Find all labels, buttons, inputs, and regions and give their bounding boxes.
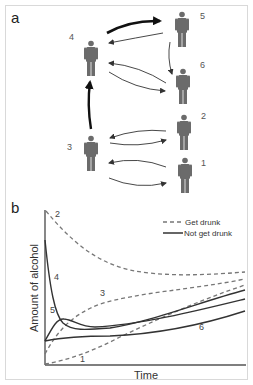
figure-canvas: a 4 5 6 2 3 1 b Time Amount of alcohol	[0, 0, 253, 385]
node-label-3: 3	[67, 142, 72, 152]
legend-solid-label: Not get drunk	[184, 229, 233, 238]
node-label-1: 1	[201, 158, 206, 168]
curve-label-4: 4	[54, 272, 59, 282]
person-4-icon	[84, 41, 98, 76]
person-3-icon	[84, 136, 98, 171]
person-6-icon	[176, 69, 190, 104]
edge-5-to-4	[109, 33, 163, 43]
node-label-2: 2	[201, 111, 206, 121]
curve-label-3: 3	[100, 288, 105, 298]
edge-2-to-3	[110, 130, 166, 138]
person-1-icon	[178, 158, 192, 193]
curve-3	[45, 279, 245, 354]
panel-b: b Time Amount of alcohol Get drunk Not g…	[11, 199, 246, 381]
curve-4	[45, 240, 245, 329]
node-label-5: 5	[200, 11, 205, 21]
legend-dashed-label: Get drunk	[185, 218, 221, 227]
curve-label-1: 1	[80, 354, 85, 364]
edge-4-to-6	[109, 72, 165, 91]
curve-label-6: 6	[199, 322, 204, 332]
edge-6-to-4	[109, 63, 166, 83]
edge-3-to-1	[109, 178, 166, 186]
curve-label-2: 2	[55, 209, 60, 219]
edge-3-to-4	[89, 82, 91, 129]
edge-4-to-5	[107, 21, 160, 33]
y-axis-title: Amount of alcohol	[28, 244, 40, 332]
edge-1-to-3	[109, 160, 166, 167]
person-2-icon	[177, 115, 191, 150]
node-label-4: 4	[69, 32, 74, 42]
legend: Get drunk Not get drunk	[163, 218, 233, 238]
person-5-icon	[175, 12, 189, 47]
curve-1	[45, 285, 245, 364]
panel-a: a 4 5 6 2 3 1	[11, 9, 206, 193]
node-label-6: 6	[200, 60, 205, 70]
x-axis-title: Time	[134, 369, 158, 381]
panel-b-label: b	[11, 199, 19, 216]
edge-3-to-2	[110, 140, 166, 145]
curve-label-5: 5	[50, 305, 55, 315]
panel-a-label: a	[11, 9, 20, 26]
edge-5-to-6	[169, 42, 172, 74]
